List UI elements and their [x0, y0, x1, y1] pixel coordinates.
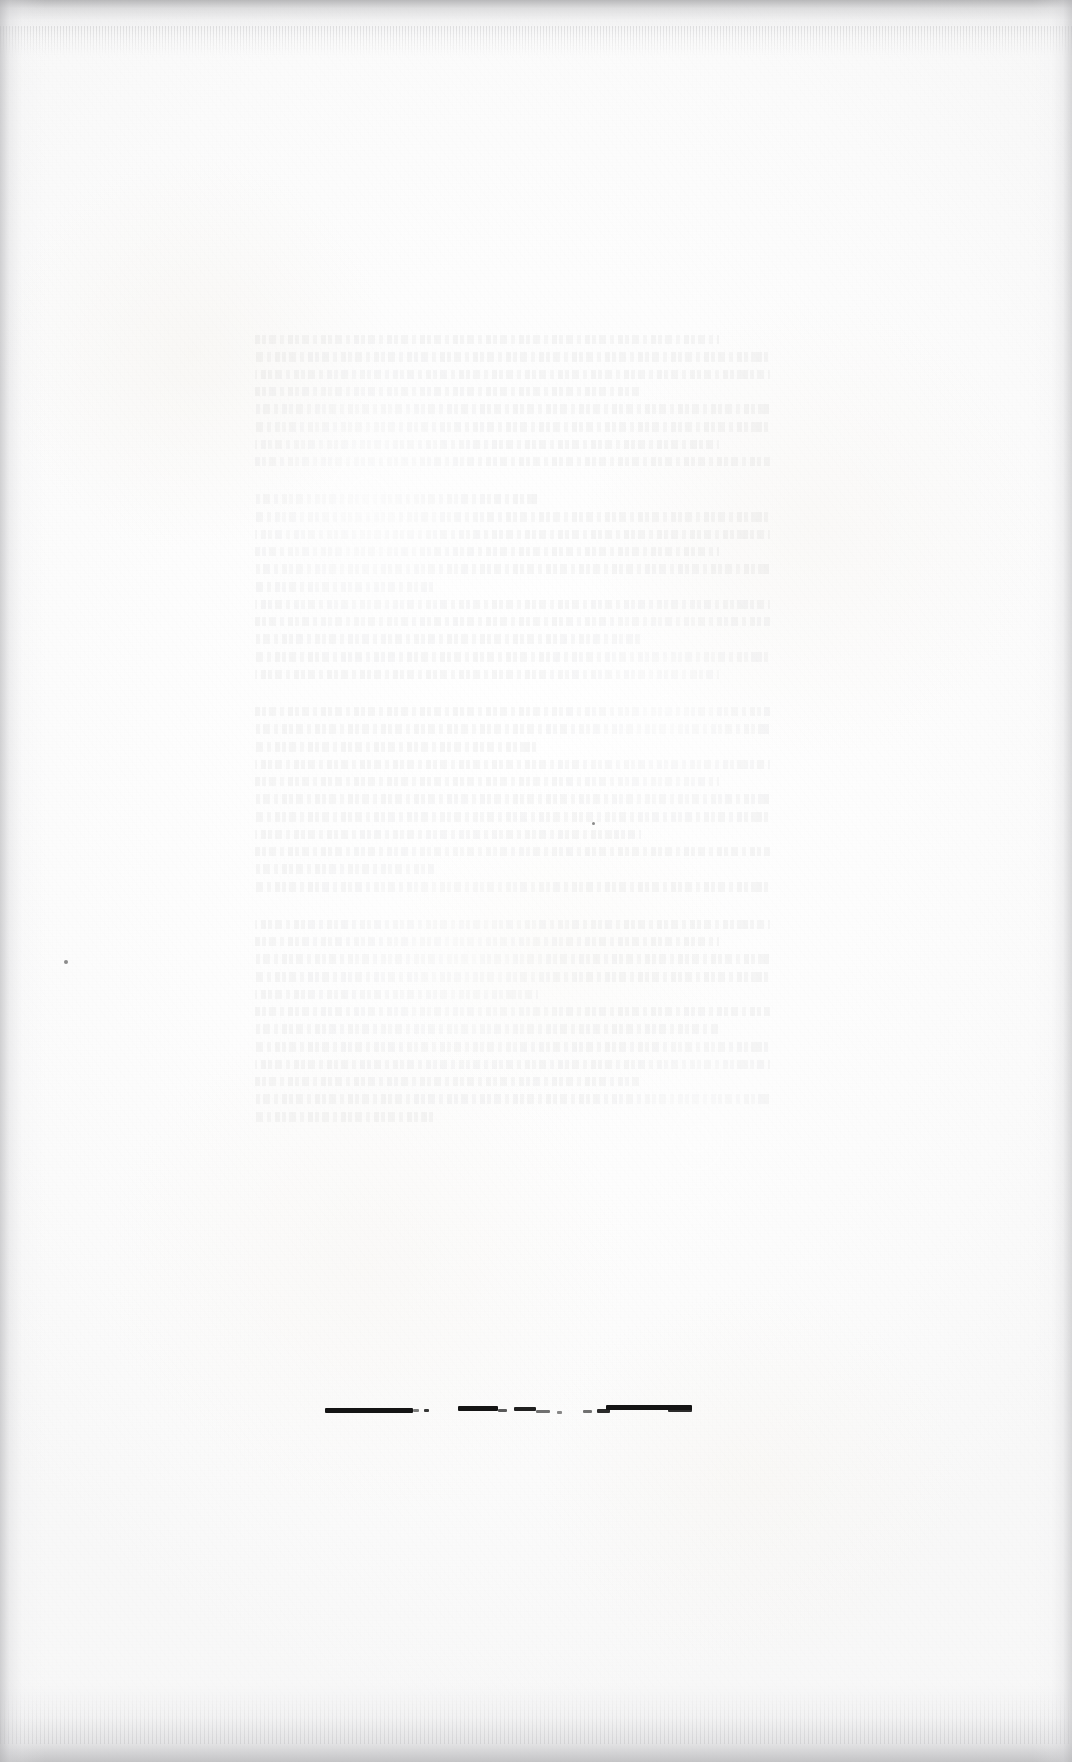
showthrough-paragraph-gap: [255, 900, 770, 920]
showthrough-line: [255, 972, 770, 982]
showthrough-line: [255, 1094, 770, 1104]
ink-stroke: [498, 1409, 507, 1412]
ink-stroke: [668, 1408, 692, 1412]
ink-stroke: [325, 1408, 413, 1413]
showthrough-text-block: [255, 335, 770, 1270]
showthrough-line: [255, 1060, 770, 1069]
ink-stroke: [583, 1410, 592, 1413]
showthrough-line: [255, 724, 770, 734]
showthrough-line: [255, 530, 770, 539]
showthrough-line: [255, 760, 770, 769]
showthrough-line: [255, 990, 538, 999]
showthrough-line: [255, 920, 770, 929]
showthrough-line: [255, 457, 770, 466]
showthrough-line: [255, 494, 538, 504]
showthrough-line: [255, 812, 770, 822]
showthrough-line: [255, 422, 770, 432]
ink-stroke: [536, 1410, 550, 1413]
ink-stroke: [413, 1409, 419, 1412]
showthrough-line: [255, 582, 435, 592]
showthrough-line: [255, 547, 719, 556]
showthrough-line: [255, 352, 770, 362]
showthrough-paragraph-gap: [255, 687, 770, 707]
showthrough-line: [255, 777, 719, 786]
showthrough-line: [255, 1042, 770, 1052]
showthrough-line: [255, 937, 719, 946]
showthrough-line: [255, 1077, 641, 1086]
showthrough-line: [255, 652, 770, 662]
showthrough-line: [255, 882, 770, 892]
showthrough-line: [255, 864, 435, 874]
showthrough-line: [255, 512, 770, 522]
showthrough-line: [255, 954, 770, 964]
showthrough-line: [255, 847, 770, 856]
margin-speck-left: [64, 960, 68, 964]
margin-speck-center: [592, 822, 595, 825]
showthrough-line: [255, 617, 770, 626]
showthrough-line: [255, 742, 538, 752]
showthrough-line: [255, 564, 770, 574]
showthrough-line: [255, 707, 770, 716]
ink-stroke: [557, 1411, 562, 1414]
showthrough-line: [255, 634, 641, 644]
showthrough-line: [255, 670, 719, 679]
showthrough-line: [255, 1024, 719, 1034]
ink-stroke: [514, 1407, 536, 1411]
showthrough-line: [255, 370, 770, 379]
showthrough-line: [255, 600, 770, 609]
showthrough-line: [255, 830, 641, 839]
showthrough-line: [255, 440, 719, 449]
ink-stroke: [458, 1406, 498, 1411]
showthrough-line: [255, 404, 770, 414]
showthrough-line: [255, 1112, 435, 1122]
showthrough-paragraph-gap: [255, 474, 770, 494]
showthrough-line: [255, 387, 641, 396]
ink-stroke: [424, 1409, 429, 1412]
showthrough-line: [255, 1007, 770, 1016]
showthrough-line: [255, 335, 719, 344]
scanned-page: [0, 0, 1072, 1762]
showthrough-line: [255, 794, 770, 804]
